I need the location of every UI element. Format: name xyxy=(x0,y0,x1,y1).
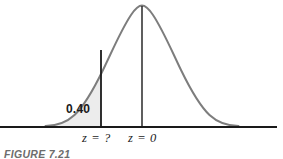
z-unknown-axis-label: z = ? xyxy=(82,132,111,145)
figure-caption: FIGURE 7.21 xyxy=(4,149,70,159)
z-mean-axis-label: z = 0 xyxy=(128,132,157,145)
shaded-area-value-label: 0.40 xyxy=(66,103,90,115)
normal-distribution-figure: 0.40 z = ? z = 0 FIGURE 7.21 xyxy=(0,0,283,159)
